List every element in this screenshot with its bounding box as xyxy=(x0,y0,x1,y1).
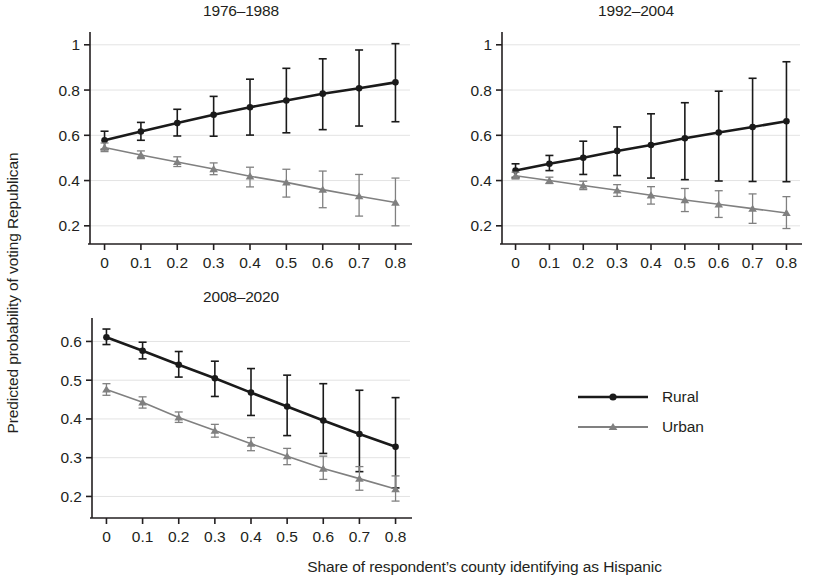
data-point-circle xyxy=(356,431,363,438)
x-tick-label: 0.1 xyxy=(132,528,154,545)
x-axis-title: Share of respondent’s county identifying… xyxy=(150,558,819,576)
panel-1992-2004: 1992–2004 0.20.40.60.8100.10.20.30.40.50… xyxy=(462,2,810,282)
x-tick-label: 0.8 xyxy=(776,254,798,271)
x-tick-label: 0.4 xyxy=(640,254,662,271)
figure-container: Predicted probability of voting Republic… xyxy=(0,0,819,586)
legend: Rural Urban xyxy=(576,382,776,442)
data-point-circle xyxy=(682,135,689,142)
x-tick-label: 0 xyxy=(511,254,520,271)
x-tick-label: 0.7 xyxy=(348,254,370,271)
data-point-circle xyxy=(392,444,399,451)
x-tick-label: 0.6 xyxy=(708,254,730,271)
data-point-circle xyxy=(546,161,553,168)
x-tick-label: 0.8 xyxy=(385,528,407,545)
panel-title: 1976–1988 xyxy=(62,2,420,20)
data-point-triangle xyxy=(174,413,183,420)
legend-label-urban: Urban xyxy=(662,418,704,436)
panel-1976-1988: 1976–1988 0.20.40.60.8100.10.20.30.40.50… xyxy=(62,2,420,282)
x-tick-label: 0.3 xyxy=(606,254,628,271)
y-tick-label: 0.8 xyxy=(470,82,492,99)
legend-entry-urban: Urban xyxy=(576,412,776,442)
x-tick-label: 0.3 xyxy=(204,528,226,545)
x-tick-label: 0.5 xyxy=(674,254,696,271)
y-tick-label: 1 xyxy=(71,36,80,53)
y-tick-label: 0.6 xyxy=(470,127,492,144)
data-point-circle xyxy=(139,347,146,354)
data-point-circle xyxy=(715,129,722,136)
x-tick-label: 0.6 xyxy=(312,528,334,545)
x-tick-label: 0.7 xyxy=(742,254,764,271)
x-tick-label: 0.4 xyxy=(239,254,261,271)
data-point-circle xyxy=(648,142,655,149)
legend-swatch-rural xyxy=(576,389,650,405)
data-point-circle xyxy=(284,403,291,410)
data-point-circle xyxy=(319,90,326,97)
x-tick-label: 0.4 xyxy=(240,528,262,545)
y-tick-label: 0.4 xyxy=(470,172,492,189)
y-tick-label: 0.8 xyxy=(58,82,80,99)
x-tick-label: 0 xyxy=(102,528,111,545)
legend-swatch-urban xyxy=(576,419,650,435)
data-point-triangle xyxy=(100,144,109,151)
x-tick-label: 0.1 xyxy=(130,254,152,271)
x-tick-label: 0.1 xyxy=(539,254,561,271)
data-point-circle xyxy=(212,375,219,382)
y-tick-label: 0.2 xyxy=(60,488,82,505)
plot-area: 0.20.40.60.8100.10.20.30.40.50.60.70.8 xyxy=(62,24,420,282)
y-tick-label: 0.5 xyxy=(60,372,82,389)
x-tick-label: 0.7 xyxy=(349,528,371,545)
x-tick-label: 0 xyxy=(100,254,109,271)
data-point-circle xyxy=(103,334,110,341)
data-point-triangle xyxy=(511,172,520,179)
data-point-triangle xyxy=(102,386,111,393)
x-tick-label: 0.2 xyxy=(166,254,188,271)
x-tick-label: 0.8 xyxy=(385,254,407,271)
data-point-circle xyxy=(392,79,399,86)
data-point-circle xyxy=(248,389,255,396)
data-point-circle xyxy=(356,85,363,92)
y-axis-title: Predicted probability of voting Republic… xyxy=(0,0,26,586)
x-tick-label: 0.6 xyxy=(312,254,334,271)
y-tick-label: 0.4 xyxy=(58,172,80,189)
data-point-circle xyxy=(210,111,217,118)
plot-area: 0.20.40.60.8100.10.20.30.40.50.60.70.8 xyxy=(462,24,810,282)
data-point-circle xyxy=(614,148,621,155)
plot-area: 0.20.30.40.50.600.10.20.30.40.50.60.70.8 xyxy=(62,310,420,556)
data-point-circle xyxy=(174,120,181,127)
panel-title: 1992–2004 xyxy=(462,2,810,20)
data-point-circle xyxy=(783,118,790,125)
data-point-circle xyxy=(138,128,145,135)
y-tick-label: 0.4 xyxy=(60,410,82,427)
y-tick-label: 0.3 xyxy=(60,449,82,466)
y-tick-label: 0.2 xyxy=(58,217,80,234)
data-point-circle xyxy=(320,417,327,424)
markers-urban xyxy=(100,144,400,206)
y-tick-label: 1 xyxy=(483,36,492,53)
x-tick-label: 0.5 xyxy=(276,254,298,271)
y-tick-label: 0.6 xyxy=(58,127,80,144)
panel-title: 2008–2020 xyxy=(62,288,420,306)
data-point-circle xyxy=(580,154,587,161)
y-tick-label: 0.2 xyxy=(470,217,492,234)
x-tick-label: 0.3 xyxy=(203,254,225,271)
x-tick-label: 0.2 xyxy=(168,528,190,545)
legend-label-rural: Rural xyxy=(662,388,699,406)
data-point-circle xyxy=(247,104,254,111)
data-point-circle xyxy=(175,361,182,368)
data-point-circle xyxy=(749,124,756,131)
x-tick-label: 0.5 xyxy=(276,528,298,545)
legend-entry-rural: Rural xyxy=(576,382,776,412)
x-tick-label: 0.2 xyxy=(572,254,594,271)
panel-2008-2020: 2008–2020 0.20.30.40.50.600.10.20.30.40.… xyxy=(62,288,420,556)
y-tick-label: 0.6 xyxy=(60,333,82,350)
error-bars-rural xyxy=(101,44,400,150)
data-point-circle xyxy=(283,97,290,104)
